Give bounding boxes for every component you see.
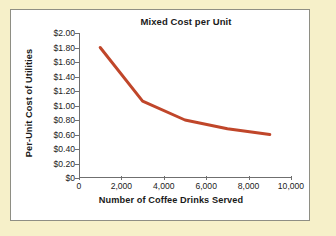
figure-root: Mixed Cost per Unit Per-Unit Cost of Uti…	[0, 0, 336, 236]
chart-card: Mixed Cost per Unit Per-Unit Cost of Uti…	[10, 9, 310, 221]
y-tick-label: $1.80	[35, 43, 75, 53]
y-tick-label: $1.00	[35, 101, 75, 111]
y-tick-label: $0.20	[35, 159, 75, 169]
y-tick-label: $2.00	[35, 28, 75, 38]
data-series-line	[79, 33, 291, 178]
x-axis-tick-labels: 02,0004,0006,0008,00010,000	[79, 180, 291, 194]
y-tick-label: $0.40	[35, 144, 75, 154]
y-axis-title: Per-Unit Cost of Utilities	[24, 33, 34, 173]
x-tick-label: 10,000	[266, 181, 316, 192]
plot-area: $0$0.20$0.40$0.60$0.80$1.00$1.20$1.40$1.…	[79, 33, 291, 178]
y-tick-label: $0.80	[35, 115, 75, 125]
y-tick-label: $1.20	[35, 86, 75, 96]
y-tick-label: $0.60	[35, 130, 75, 140]
y-axis-tick-labels: $0$0.20$0.40$0.60$0.80$1.00$1.20$1.40$1.…	[35, 26, 75, 185]
x-tick-mark	[291, 176, 292, 180]
chart-title: Mixed Cost per Unit	[71, 16, 301, 27]
x-axis-title: Number of Coffee Drinks Served	[41, 195, 301, 205]
y-tick-label: $1.60	[35, 57, 75, 67]
y-tick-label: $1.40	[35, 72, 75, 82]
